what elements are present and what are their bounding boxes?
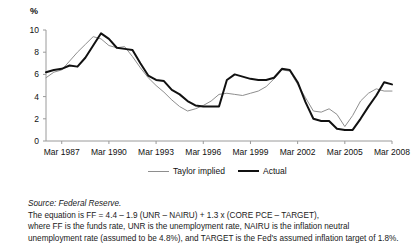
y-tick-label: 2	[19, 114, 39, 124]
legend-label-actual: Actual	[263, 166, 287, 176]
x-tick-label: Mar 1990	[83, 147, 135, 157]
y-tick-label: 4	[19, 92, 39, 102]
chart-legend: Taylor implied Actual	[148, 166, 287, 176]
x-tick-label: Mar 2008	[366, 147, 418, 157]
legend-item-taylor-implied: Taylor implied	[148, 166, 225, 176]
x-tick-label: Mar 1999	[224, 147, 276, 157]
y-tick-label: 10	[19, 25, 39, 35]
x-tick-label: Mar 1993	[130, 147, 182, 157]
x-tick-label: Mar 2005	[319, 147, 371, 157]
series-line-taylor-implied	[46, 37, 392, 127]
y-tick-label: 8	[19, 47, 39, 57]
chart-footnotes: Source: Federal Reserve. The equation is…	[28, 198, 420, 244]
legend-item-actual: Actual	[238, 166, 287, 176]
axis-lines	[46, 30, 392, 141]
y-tick-label: 0	[19, 136, 39, 146]
source-line: Source: Federal Reserve.	[28, 198, 420, 210]
x-tick-label: Mar 2002	[272, 147, 324, 157]
legend-label-taylor: Taylor implied	[173, 166, 225, 176]
taylor-rule-chart: % 1086420 Mar 1987Mar 1990Mar 1993Mar 19…	[0, 0, 420, 248]
legend-line-actual-icon	[238, 170, 259, 172]
equation-line: The equation is FF = 4.4 – 1.9 (UNR – NA…	[28, 210, 420, 222]
x-tick-label: Mar 1987	[36, 147, 88, 157]
x-tick-label: Mar 1996	[177, 147, 229, 157]
definition-line-2: unemployment rate (assumed to be 4.8%), …	[28, 233, 420, 245]
legend-line-taylor-icon	[148, 171, 169, 172]
y-tick-label: 6	[19, 69, 39, 79]
series-line-actual	[46, 33, 392, 130]
definition-line-1: where FF is the funds rate, UNR is the u…	[28, 221, 420, 233]
data-series-group	[46, 33, 392, 130]
